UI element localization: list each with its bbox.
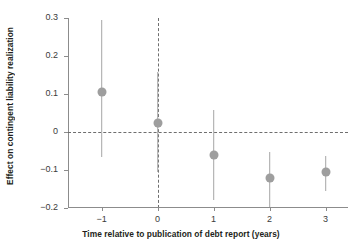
x-axis-tick [102,207,103,211]
y-axis-line [68,18,69,208]
data-point-marker [153,118,162,127]
data-point-marker [97,88,106,97]
y-axis-tick: −0.1 [64,170,68,171]
x-axis-tick [158,207,159,211]
x-axis-tick-label: 0 [155,214,160,224]
x-axis-title: Time relative to publication of debt rep… [0,229,362,239]
x-axis-tick-label: −1 [96,214,106,224]
y-axis-tick-label: 0.2 [45,50,58,60]
y-axis-tick: 0 [64,132,68,133]
data-point-marker [209,150,218,159]
x-axis-tick-label: 1 [211,214,216,224]
y-axis-tick: 0.3 [64,18,68,19]
y-axis-tick-label: 0 [53,126,58,136]
y-axis-title: Effect on contingent liability realizati… [0,0,20,212]
zero-reference-line [68,132,348,133]
x-axis-tick [214,207,215,211]
x-axis-tick [270,207,271,211]
data-point-marker [265,174,274,183]
data-point-marker [321,167,330,176]
x-axis-tick-label: 2 [267,214,272,224]
y-axis-tick-label: 0.3 [45,12,58,22]
y-axis-tick-label: −0.1 [40,164,58,174]
x-axis-line [68,207,348,208]
y-axis-tick: 0.2 [64,56,68,57]
x-axis-tick-label: 3 [323,214,328,224]
plot-area: 0.30.20.10−0.1−0.2 −10123 [68,18,348,208]
y-axis-tick: −0.2 [64,208,68,209]
x-axis-tick [326,207,327,211]
y-axis-title-text: Effect on contingent liability realizati… [5,27,15,185]
y-axis-tick-label: −0.2 [40,202,58,212]
y-axis-tick-label: 0.1 [45,88,58,98]
chart-figure: Effect on contingent liability realizati… [0,0,362,248]
y-axis-tick: 0.1 [64,94,68,95]
